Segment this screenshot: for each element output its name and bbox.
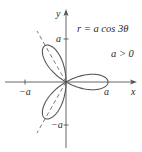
rose-curve-diagram: y x −a a a −a r = a cos 3θ a > 0 <box>0 0 142 152</box>
x-axis-label: x <box>130 86 136 97</box>
equation-label: r = a cos 3θ <box>77 23 128 34</box>
y-tick-label-a: a <box>56 33 61 44</box>
y-tick-label-neg-a: −a <box>51 119 63 130</box>
y-axis-label: y <box>55 8 61 19</box>
x-tick-label-neg-a: −a <box>19 86 31 97</box>
condition-label: a > 0 <box>111 48 135 59</box>
dashed-line-120 <box>37 31 66 82</box>
x-tick-label-a: a <box>104 86 109 97</box>
